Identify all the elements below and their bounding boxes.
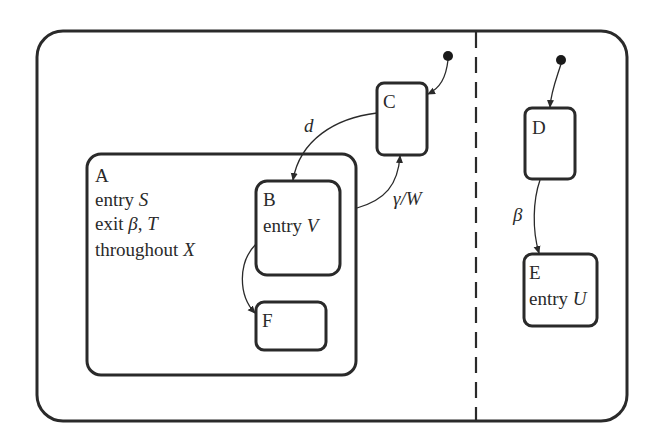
- state-e-entry: entry U: [529, 288, 588, 309]
- statechart-diagram: A entry S exit β, T throughout X B entry…: [0, 0, 654, 441]
- transition-label-gamma-w: γ/W: [393, 188, 424, 209]
- state-d[interactable]: D: [525, 108, 575, 179]
- state-a-name: A: [95, 165, 109, 186]
- state-f-name: F: [262, 310, 273, 331]
- initial-state-right-icon: [556, 55, 566, 65]
- state-e-name: E: [529, 262, 541, 283]
- state-a-exit: exit β, T: [95, 213, 159, 234]
- state-c[interactable]: C: [377, 83, 427, 155]
- state-a-throughout: throughout X: [95, 239, 196, 260]
- state-a-entry: entry S: [95, 189, 149, 210]
- state-c-name: C: [383, 91, 396, 112]
- state-b-entry: entry V: [263, 215, 321, 236]
- state-d-name: D: [532, 117, 546, 138]
- state-f[interactable]: F: [256, 302, 326, 350]
- transition-label-d: d: [304, 115, 314, 136]
- state-e[interactable]: E entry U: [524, 254, 597, 326]
- transition-label-beta: β: [512, 204, 523, 225]
- state-b-name: B: [263, 189, 276, 210]
- state-b[interactable]: B entry V: [256, 181, 340, 275]
- initial-state-left-icon: [443, 51, 453, 61]
